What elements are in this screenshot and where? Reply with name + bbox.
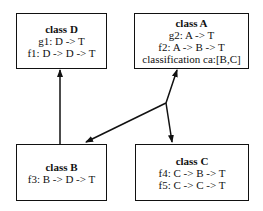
class-c-title: class C [176,155,209,167]
class-a-classification: classification ca:[B,C] [142,53,240,65]
class-a-title: class A [175,17,207,29]
edge-junction-to-b [86,103,166,142]
class-c-member: f4: C -> B -> T [159,167,226,179]
class-b-member: f3: B -> D -> T [28,173,96,185]
class-d-member: g1: D -> T [38,35,85,47]
edge-junction-to-c [166,103,172,142]
class-b-box: class B f3: B -> D -> T [16,144,107,201]
class-d-member: f1: D -> D -> T [27,47,95,59]
class-a-box: class A g2: A -> T f2: A -> B -> T class… [134,13,249,69]
class-d-title: class D [45,23,78,35]
class-b-title: class B [45,161,77,173]
class-d-box: class D g1: D -> T f1: D -> D -> T [16,13,107,69]
class-c-box: class C f4: C -> B -> T f5: C -> C -> T [135,144,249,201]
class-c-member: f5: C -> C -> T [159,179,226,191]
edge-junction-to-a [166,70,177,103]
class-a-member: g2: A -> T [169,29,214,41]
class-a-member: f2: A -> B -> T [158,41,224,53]
